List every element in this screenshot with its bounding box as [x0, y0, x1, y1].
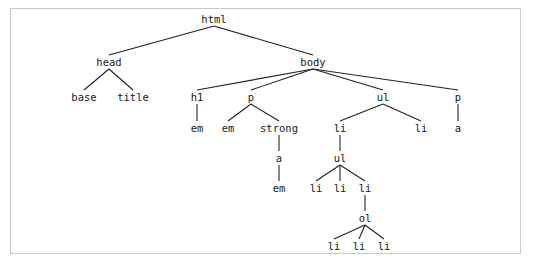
tree-edge-ul1-li2 [383, 104, 421, 121]
tree-edge-body-ul1 [313, 69, 383, 90]
tree-node-head: head [96, 57, 121, 68]
tree-edge-ul2-li3 [316, 165, 340, 181]
tree-edge-body-p1 [251, 69, 313, 90]
tree-node-ol: ol [359, 213, 372, 224]
tree-edge-ol-li8 [365, 225, 384, 239]
tree-node-body: body [300, 57, 325, 68]
tree-edge-head-base [84, 69, 109, 90]
tree-node-li4: li [334, 183, 347, 194]
tree-node-base: base [71, 92, 96, 103]
dom-tree-figure: htmlheadbodybasetitleh1pulpememstronglil… [0, 0, 537, 264]
tree-node-li1: li [334, 123, 347, 134]
tree-node-title: title [117, 92, 149, 103]
tree-edge-ul1-li1 [340, 104, 383, 121]
tree-edge-head-title [109, 69, 133, 90]
tree-edge-ul2-li5 [340, 165, 365, 181]
tree-edge-body-p2 [313, 69, 458, 90]
tree-node-li8: li [378, 241, 391, 252]
tree-node-em2: em [222, 123, 235, 134]
tree-edge-body-h1 [197, 69, 313, 90]
tree-node-a1: a [455, 123, 461, 134]
tree-node-em1: em [191, 123, 204, 134]
tree-node-li7: li [353, 241, 366, 252]
tree-node-ul2: ul [334, 153, 347, 164]
tree-node-strong: strong [260, 123, 298, 134]
tree-node-li6: li [328, 241, 341, 252]
tree-edge-p1-em2 [228, 104, 251, 121]
tree-edge-html-body [214, 26, 313, 55]
tree-node-p2: p [455, 92, 461, 103]
tree-node-em3: em [273, 183, 286, 194]
tree-edge-p1-strong [251, 104, 279, 121]
tree-node-h1: h1 [191, 92, 204, 103]
tree-node-a2: a [276, 153, 282, 164]
tree-node-li5: li [359, 183, 372, 194]
tree-node-html: html [201, 14, 226, 25]
tree-node-ul1: ul [377, 92, 390, 103]
tree-node-li2: li [415, 123, 428, 134]
tree-edge-html-head [109, 26, 214, 55]
tree-node-p1: p [248, 92, 254, 103]
tree-node-li3: li [310, 183, 323, 194]
